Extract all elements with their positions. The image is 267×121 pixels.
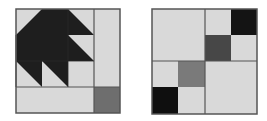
right-quilt-block [152, 9, 257, 114]
corner-square-mid [94, 87, 120, 113]
left-quilt-block [16, 9, 120, 113]
black-square-top-right [231, 9, 257, 35]
squares-r1c0-c1 [16, 35, 68, 61]
quilt-diagrams [0, 0, 267, 121]
black-square-bottom-left [152, 87, 178, 114]
dark-gray-square [205, 35, 231, 61]
square-r0c1 [42, 9, 68, 35]
gray-square [178, 61, 205, 87]
